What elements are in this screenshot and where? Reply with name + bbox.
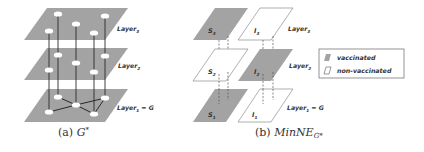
panel-a-multilayer-graph: Layer3 Layer2 Layer1 = G (24, 8, 154, 122)
caption-b-prefix: (b) (255, 126, 271, 139)
caption-a: (a) G* (58, 126, 89, 139)
node (72, 21, 80, 26)
node (45, 67, 53, 72)
node (90, 69, 98, 74)
panel-b-layer-2-label: Layer2 (289, 62, 311, 71)
panel-b-layer-1-label: Layer1 = G (287, 104, 324, 113)
node (54, 52, 62, 57)
legend: vaccinated non-vaccinated (319, 49, 404, 78)
node (72, 102, 80, 107)
node (90, 111, 98, 116)
cell-s1-vaccinated (193, 89, 248, 122)
cell-i1-non-vaccinated (238, 89, 293, 122)
node (101, 95, 109, 100)
legend-label-non-vaccinated: non-vaccinated (337, 67, 392, 74)
node (45, 109, 53, 114)
panel-b-layer-3-label: Layer3 (288, 25, 310, 34)
caption-b-math: MinNE (274, 126, 314, 139)
node (101, 13, 109, 18)
node (54, 94, 62, 99)
panel-b-minne: S3 I3 S2 I2 S1 I1 Layer3 Layer2 Layer1 =… (193, 8, 404, 122)
legend-label-vaccinated: vaccinated (337, 54, 376, 61)
node (101, 53, 109, 58)
cell-i2-vaccinated (238, 49, 293, 81)
layer-3-label: Layer3 (117, 25, 139, 34)
caption-b-sub: G* (314, 132, 323, 140)
node (72, 60, 80, 65)
caption-b: (b) MinNEG* (255, 126, 323, 140)
caption-a-sup: * (85, 126, 89, 134)
cell-s3-vaccinated (193, 8, 248, 40)
node (45, 28, 53, 33)
cell-i3-non-vaccinated (238, 8, 293, 40)
figure: Layer3 Layer2 Layer1 = G (0, 0, 424, 152)
node (90, 30, 98, 35)
cell-s2-non-vaccinated (193, 49, 248, 81)
layer-2-label: Layer2 (118, 62, 140, 71)
node (54, 11, 62, 16)
caption-a-prefix: (a) (58, 126, 73, 139)
layer-1-label: Layer1 = G (117, 104, 154, 113)
